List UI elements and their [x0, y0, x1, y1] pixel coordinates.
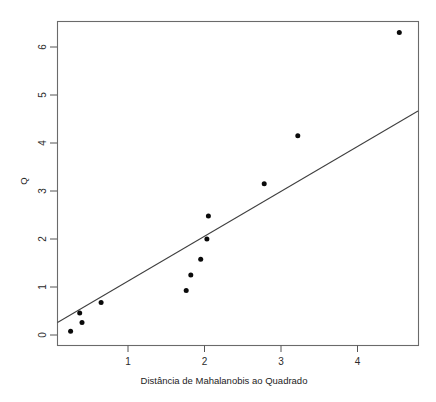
x-tick-label: 4: [355, 356, 361, 367]
data-point: [77, 311, 82, 316]
y-tick-label: 3: [37, 188, 48, 194]
x-tick-label: 3: [278, 356, 284, 367]
data-point: [188, 273, 193, 278]
data-point: [206, 214, 211, 219]
x-tick-label: 1: [125, 356, 131, 367]
data-point: [397, 30, 402, 35]
y-tick-label: 2: [37, 236, 48, 242]
plot-canvas: 6 5 4 3 2 1 0: [0, 0, 436, 402]
x-tick-label: 2: [202, 356, 208, 367]
figure-background: [0, 0, 436, 402]
data-point: [262, 181, 267, 186]
y-axis-title: Q: [18, 177, 29, 184]
y-tick-label: 4: [37, 140, 48, 146]
data-point: [68, 329, 73, 334]
x-axis-title: Distância de Mahalanobis ao Quadrado: [141, 375, 308, 386]
data-point: [198, 257, 203, 262]
y-tick-label: 6: [37, 44, 48, 50]
y-tick-label: 1: [37, 284, 48, 290]
y-tick-label: 5: [37, 92, 48, 98]
data-point: [184, 288, 189, 293]
y-tick-label: 0: [37, 332, 48, 338]
data-point: [295, 133, 300, 138]
data-point: [99, 300, 104, 305]
data-point: [80, 320, 85, 325]
scatter-plot-figure: 6 5 4 3 2 1 0: [0, 0, 436, 402]
data-point: [204, 237, 209, 242]
